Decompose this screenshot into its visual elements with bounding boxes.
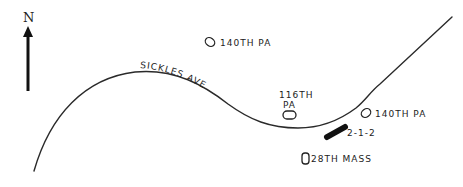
unit-label: 140TH PA [220,38,271,48]
unit-position-marker-icon [283,111,296,119]
unit-140th-pa-east: 140TH PA [360,107,427,119]
battlefield-map: N SICKLES AVE 140TH PA 116TH PA 140TH P [0,0,463,187]
position-2-1-2: 2-1-2 [327,127,376,138]
unit-position-marker-icon [302,153,309,164]
unit-position-marker-icon [204,36,217,48]
unit-28th-mass: 28TH MASS [302,153,372,164]
position-label: 2-1-2 [347,128,376,138]
unit-position-marker-icon [360,107,373,119]
unit-140th-pa-north: 140TH PA [204,36,272,48]
unit-label-line2: PA [283,100,296,110]
unit-116th-pa: 116TH PA [279,90,313,119]
north-arrow-head [23,26,33,37]
unit-label-line1: 116TH [279,90,313,100]
road-label: SICKLES AVE [140,60,208,91]
unit-label: 28TH MASS [311,154,372,164]
position-bar-marker-icon [327,127,345,137]
map-canvas: N SICKLES AVE 140TH PA 116TH PA 140TH P [0,0,463,187]
north-arrow-icon: N [23,10,34,91]
unit-label: 140TH PA [375,109,426,119]
north-label: N [23,10,34,25]
